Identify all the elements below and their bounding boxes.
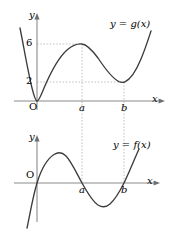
bottom-function-label: y = f(x) — [113, 140, 151, 150]
top-function-label: y = g(x) — [110, 19, 150, 29]
bottom-x-tick-label-a: a — [79, 185, 85, 195]
bottom-x-tick-label-b: b — [121, 185, 127, 195]
top-x-axis-label: x — [152, 94, 158, 104]
top-y-axis-label: y — [29, 10, 35, 20]
calculus-figure: y x 6 2 O a b y = g(x) y x O a b y = f(x… — [0, 0, 173, 233]
curve-g-of-x — [20, 28, 151, 101]
bottom-y-axis-arrow — [34, 135, 39, 141]
bottom-x-axis-arrow — [154, 180, 160, 185]
top-x-tick-label-b: b — [121, 103, 127, 113]
figure-canvas — [0, 0, 173, 233]
top-y-tick-label-2: 2 — [26, 76, 32, 86]
top-origin-label: O — [29, 102, 37, 112]
top-x-axis-arrow — [159, 98, 165, 103]
bottom-y-axis-label: y — [29, 132, 35, 142]
bottom-x-axis-label: x — [147, 176, 153, 186]
top-y-axis-arrow — [34, 13, 39, 19]
top-x-tick-label-a: a — [79, 103, 85, 113]
top-y-tick-label-6: 6 — [26, 38, 32, 48]
bottom-origin-label: O — [26, 170, 34, 180]
